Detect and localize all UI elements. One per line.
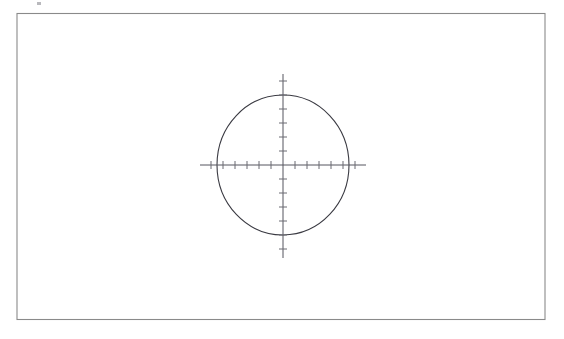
page-canvas <box>0 0 564 339</box>
ellipse-axes-figure <box>0 0 564 339</box>
scan-speck <box>37 2 41 5</box>
background-rect <box>0 0 564 339</box>
